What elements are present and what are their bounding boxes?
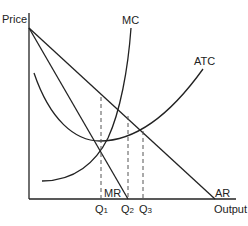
q2-subscript: 2 — [130, 206, 134, 215]
q2-letter: Q — [121, 203, 130, 215]
q1-letter: Q — [95, 203, 104, 215]
x-axis-label: Output — [214, 204, 247, 215]
y-axis-label: Price — [2, 14, 27, 25]
q3-label: Q3 — [139, 204, 152, 215]
q1-subscript: 1 — [104, 206, 108, 215]
mc-curve — [42, 28, 131, 181]
mr-label: MR — [104, 188, 121, 199]
mr-curve — [29, 28, 128, 199]
cost-revenue-diagram — [0, 0, 248, 226]
ar-label: AR — [215, 188, 230, 199]
ar-curve — [29, 28, 215, 199]
q3-subscript: 3 — [148, 206, 152, 215]
mc-label: MC — [122, 15, 139, 26]
q2-label: Q2 — [121, 204, 134, 215]
q3-letter: Q — [139, 203, 148, 215]
q1-label: Q1 — [95, 204, 108, 215]
atc-label: ATC — [194, 56, 215, 67]
